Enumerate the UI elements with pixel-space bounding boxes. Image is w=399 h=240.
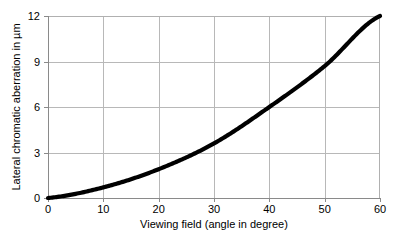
chart-background [0,0,399,240]
lateral-chromatic-aberration-chart: 0102030405060 036912 Viewing field (angl… [0,0,399,240]
y-axis-title: Lateral chromatic aberration in µm [10,23,22,190]
x-tick-label-0: 0 [45,203,51,215]
x-tick-label-50: 50 [319,203,331,215]
y-tick-label-6: 6 [34,101,40,113]
x-tick-label-30: 30 [208,203,220,215]
x-tick-label-60: 60 [374,203,386,215]
y-tick-label-9: 9 [34,56,40,68]
y-tick-label-0: 0 [34,192,40,204]
y-tick-label-12: 12 [28,10,40,22]
x-axis-title: Viewing field (angle in degree) [140,218,288,230]
x-tick-label-40: 40 [263,203,275,215]
chart-figure: 0102030405060 036912 Viewing field (angl… [0,0,399,240]
x-tick-label-10: 10 [97,203,109,215]
x-tick-label-20: 20 [153,203,165,215]
y-tick-label-3: 3 [34,147,40,159]
